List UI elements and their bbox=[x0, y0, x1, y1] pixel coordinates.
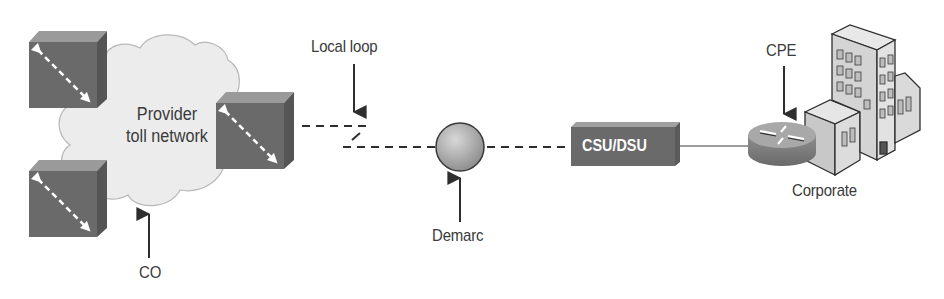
cloud-label-line1: Provider bbox=[118, 104, 217, 126]
cloud-label-line2: toll network bbox=[118, 126, 217, 148]
local-loop-label: Local loop bbox=[311, 38, 377, 57]
demarc-label: Demarc bbox=[432, 227, 483, 246]
corporate-label: Corporate bbox=[792, 182, 857, 201]
corporate-building-icon bbox=[805, 25, 920, 175]
network-diagram: Provider toll network Local loop CO Dema… bbox=[0, 0, 944, 299]
switch-right-icon bbox=[216, 92, 294, 169]
switch-bottom-left-icon bbox=[29, 160, 107, 237]
cloud-label: Provider toll network bbox=[118, 104, 217, 147]
csu-dsu-label: CSU/DSU bbox=[582, 137, 647, 155]
local-loop-line bbox=[302, 126, 436, 147]
demarc-icon bbox=[436, 123, 484, 171]
cpe-label: CPE bbox=[766, 42, 796, 61]
co-label: CO bbox=[139, 264, 161, 283]
switch-top-left-icon bbox=[29, 31, 107, 108]
cpe-router-icon bbox=[748, 122, 816, 166]
